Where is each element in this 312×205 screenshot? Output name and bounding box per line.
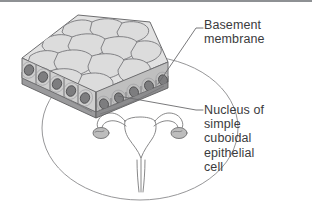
label-nucleus-of-simple-cuboidal-epithelial-cell: Nucleus of simple cuboidal epithelial ce… xyxy=(204,103,264,174)
label-basement-membrane: Basement membrane xyxy=(204,18,265,46)
illustration-canvas xyxy=(0,0,312,205)
uterus-and-ovaries-diagram xyxy=(93,113,187,192)
epithelium-figure: Basement membrane Nucleus of simple cubo… xyxy=(0,0,312,205)
simple-cuboidal-epithelium-block xyxy=(19,15,172,118)
